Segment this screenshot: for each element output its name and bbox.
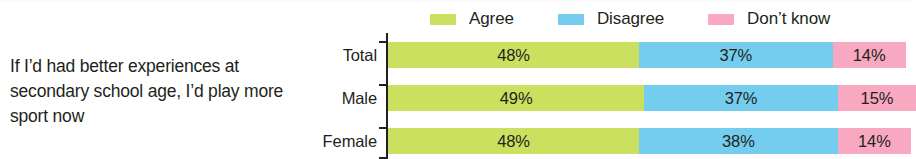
legend-swatch-agree <box>430 14 456 25</box>
bar-value-dont-know: 14% <box>858 128 891 154</box>
bar-segment-dont-know: 14% <box>838 128 911 154</box>
bar-segment-disagree: 37% <box>639 42 833 68</box>
bar-segment-agree: 48% <box>388 128 639 154</box>
cropped-top-rule <box>0 0 911 2</box>
legend-item-agree: Agree <box>430 10 514 28</box>
legend-swatch-dont-know <box>708 14 734 25</box>
bar-value-agree: 49% <box>500 85 533 111</box>
chart-legend: Agree Disagree Don’t know <box>430 8 830 30</box>
legend-item-disagree: Disagree <box>558 10 664 28</box>
legend-item-dont-know: Don’t know <box>708 10 830 28</box>
legend-label-agree: Agree <box>469 10 514 28</box>
bar-segment-agree: 49% <box>388 85 644 111</box>
bar-value-disagree: 37% <box>719 42 752 68</box>
bar-segment-agree: 48% <box>388 42 639 68</box>
legend-label-dont-know: Don’t know <box>747 10 830 28</box>
bar-value-dont-know: 15% <box>861 85 894 111</box>
bar-value-agree: 48% <box>497 128 530 154</box>
bar-value-agree: 48% <box>497 42 530 68</box>
legend-label-disagree: Disagree <box>597 10 664 28</box>
chart-plot-area: Total 48% 37% 14% Male 49% 37% 15% <box>300 33 911 159</box>
category-label-male: Male <box>257 85 388 111</box>
bar-segment-disagree: 37% <box>644 85 838 111</box>
bar-segment-dont-know: 14% <box>833 42 906 68</box>
bar-segment-disagree: 38% <box>639 128 838 154</box>
category-label-total: Total <box>257 42 388 68</box>
legend-swatch-disagree <box>558 14 584 25</box>
category-label-female: Female <box>257 128 388 154</box>
axis-tick-bottom <box>379 157 388 159</box>
bar-value-disagree: 38% <box>722 128 755 154</box>
bar-value-disagree: 37% <box>725 85 758 111</box>
bar-value-dont-know: 14% <box>853 42 886 68</box>
bar-segment-dont-know: 15% <box>838 85 916 111</box>
